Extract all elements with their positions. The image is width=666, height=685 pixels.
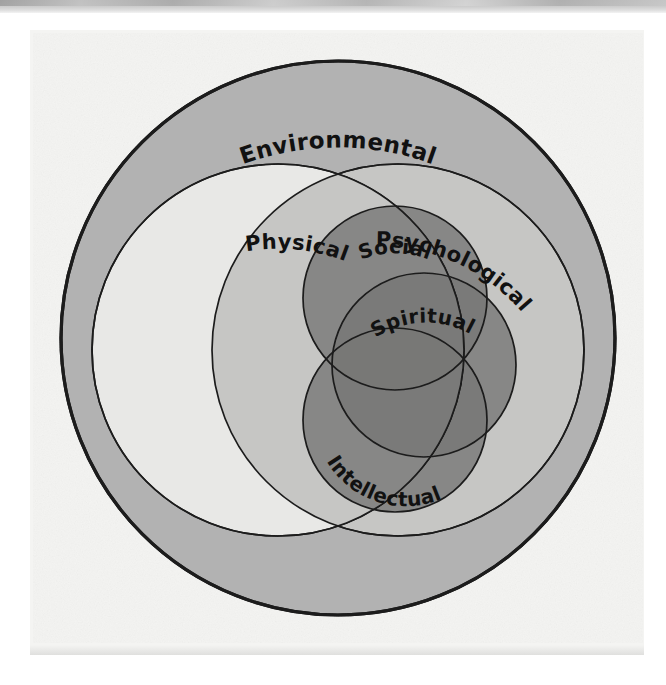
venn-diagram: Environmental Physical Psychological Soc… (0, 0, 666, 685)
region-intellectual[interactable] (303, 328, 487, 512)
